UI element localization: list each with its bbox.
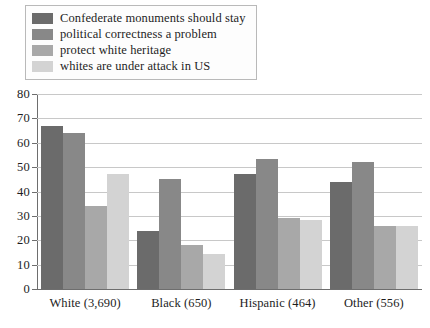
y-axis-tick — [32, 94, 37, 95]
legend-item-label: Confederate monuments should stay — [60, 12, 246, 25]
y-axis-tick-label: 0 — [23, 282, 30, 297]
bar — [41, 126, 63, 289]
bar — [374, 226, 396, 289]
legend-swatch-icon — [32, 13, 53, 24]
bar — [107, 174, 129, 289]
y-axis-tick — [32, 143, 37, 144]
y-axis-tick-label: 60 — [17, 135, 30, 150]
bar — [234, 174, 256, 289]
legend-item-label: protect white heritage — [60, 44, 171, 57]
y-axis-tick — [32, 118, 37, 119]
bar — [63, 133, 85, 289]
bar — [159, 179, 181, 289]
legend-swatch-icon — [32, 61, 53, 72]
legend-swatch-icon — [32, 29, 53, 40]
bar — [396, 226, 418, 289]
x-axis-tick-label: Other (556) — [344, 296, 404, 311]
bar — [85, 206, 107, 289]
bar — [278, 218, 300, 289]
legend-item: protect white heritage — [32, 42, 246, 58]
gridline — [37, 289, 422, 290]
y-axis-tick — [32, 192, 37, 193]
legend-item-label: political correctness a problem — [60, 28, 217, 41]
y-axis-tick — [32, 265, 37, 266]
bar — [203, 254, 225, 289]
y-axis-tick-label: 40 — [17, 184, 30, 199]
y-axis-tick-label: 80 — [17, 87, 30, 102]
x-axis-tick-label: Black (650) — [151, 296, 211, 311]
x-axis-tick-label: Hispanic (464) — [240, 296, 316, 311]
bar — [352, 162, 374, 289]
bar — [330, 182, 352, 289]
legend-item: Confederate monuments should stay — [32, 10, 246, 26]
legend-swatch-icon — [32, 45, 53, 56]
chart-legend: Confederate monuments should stay politi… — [25, 5, 257, 80]
bar-chart-plot-area: 01020304050607080White (3,690)Black (650… — [37, 94, 422, 289]
x-axis-tick-label: White (3,690) — [49, 296, 120, 311]
legend-item-label: whites are under attack in US — [60, 60, 210, 73]
bar — [137, 231, 159, 290]
y-axis-tick — [32, 167, 37, 168]
y-axis-tick — [32, 289, 37, 290]
y-axis-tick-label: 10 — [17, 257, 30, 272]
legend-item: whites are under attack in US — [32, 58, 246, 74]
y-axis-tick — [32, 240, 37, 241]
bar — [300, 220, 322, 289]
y-axis-tick-label: 70 — [17, 111, 30, 126]
bar-group: Black (650) — [137, 94, 225, 289]
bar-group: Hispanic (464) — [234, 94, 322, 289]
bar-group: White (3,690) — [41, 94, 129, 289]
bar — [256, 159, 278, 289]
legend-item: political correctness a problem — [32, 26, 246, 42]
bar-group: Other (556) — [330, 94, 418, 289]
y-axis-tick-label: 20 — [17, 233, 30, 248]
y-axis-tick-label: 30 — [17, 208, 30, 223]
bar — [181, 245, 203, 289]
y-axis-tick-label: 50 — [17, 160, 30, 175]
y-axis-tick — [32, 216, 37, 217]
